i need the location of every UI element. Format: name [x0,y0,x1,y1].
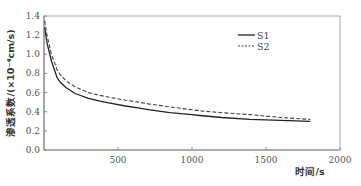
legend-label-s2: S2 [257,41,270,52]
x-axis-title: 时间/s [295,166,324,177]
legend: S1S2 [238,30,270,52]
y-tick-label: 1.2 [26,30,40,40]
plot-frame [44,16,340,150]
y-tick-label: 0.8 [26,68,41,78]
x-tick-label: 1500 [255,155,278,165]
y-tick-label: 0.2 [26,126,40,136]
x-tick-label: 500 [109,155,126,165]
y-tick-label: 0.4 [26,107,41,117]
legend-label-s1: S1 [257,30,270,41]
y-tick-label: 1.4 [26,11,41,21]
x-tick-label: 1000 [181,155,204,165]
y-axis-title: 渗透系数/(×10⁻⁴cm/s) [5,29,16,136]
chart-canvas: 0.00.20.40.60.81.01.21.4 500100015002000… [0,0,361,186]
x-tick-label: 2000 [329,155,352,165]
series-s1-line [45,28,311,122]
y-tick-label: 0.6 [26,88,41,98]
y-tick-label: 1.0 [26,49,41,59]
plot-border [44,16,340,150]
y-tick-label: 0.0 [26,145,41,155]
series-s2-line [45,21,311,120]
series-lines [45,21,311,122]
